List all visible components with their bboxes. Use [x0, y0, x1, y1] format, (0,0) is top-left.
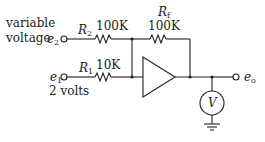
- r2-resistor: [95, 35, 111, 43]
- junction-dot: [130, 75, 133, 78]
- r2-label: R2: [78, 24, 92, 40]
- output-terminal: [233, 74, 239, 80]
- r2-value: 100K: [96, 20, 128, 32]
- e2-label: e2: [47, 33, 59, 49]
- e2-description-line1: variable: [6, 17, 55, 29]
- op-amp-triangle: [143, 57, 175, 97]
- rf-value: 100K: [148, 20, 180, 32]
- e1-description: 2 volts: [49, 85, 89, 97]
- r1-value: 10K: [96, 59, 120, 71]
- rf-resistor: [150, 35, 166, 43]
- r1-label: R1: [79, 62, 93, 78]
- e2-terminal: [61, 36, 67, 42]
- voltmeter-label: V: [208, 97, 217, 109]
- junction-dot: [188, 75, 191, 78]
- junction-dot: [210, 75, 213, 78]
- output-label: eo: [244, 71, 256, 87]
- r1-resistor: [95, 73, 111, 81]
- e2-description-line2: voltage: [6, 32, 51, 44]
- circuit-diagram: variable voltage e2 R2 100K R1 10K e1 2 …: [0, 0, 265, 142]
- junction-dot: [130, 37, 133, 40]
